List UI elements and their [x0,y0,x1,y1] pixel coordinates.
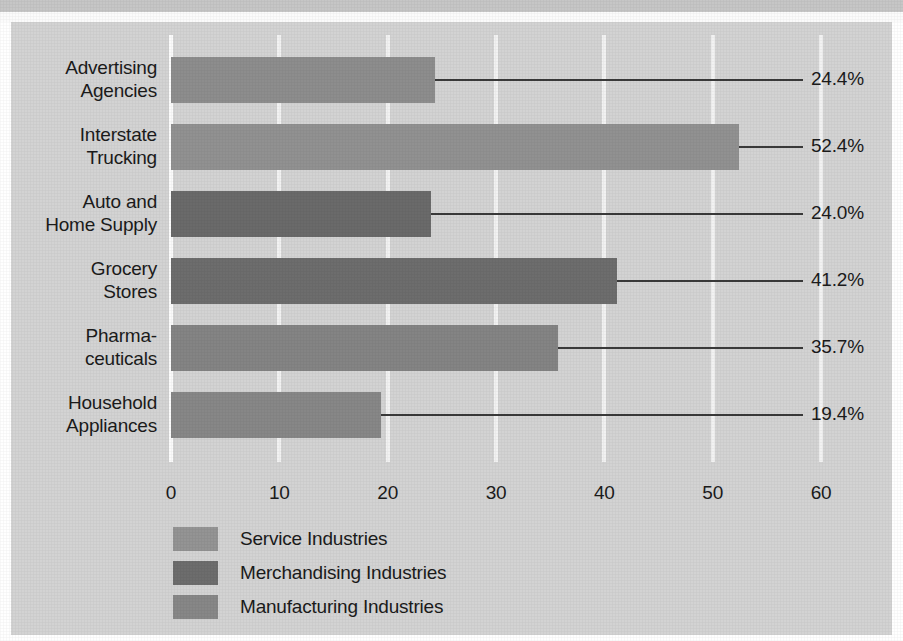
x-tick-label: 20 [368,482,408,504]
leader-line [739,146,803,148]
bar [171,258,617,304]
value-label: 52.4% [811,136,864,156]
leader-line [431,213,803,215]
category-label-line1: Advertising [9,56,157,79]
x-tick-label: 50 [693,482,733,504]
gridline-60 [819,35,823,462]
legend-swatch [173,595,218,619]
x-tick-label: 60 [801,482,841,504]
x-tick-label: 30 [476,482,516,504]
legend-label: Manufacturing Industries [240,596,443,618]
gridline-40 [602,35,606,462]
gridline-50 [711,35,715,462]
x-tick-label: 0 [151,482,191,504]
chart-panel: AdvertisingAgenciesInterstateTruckingAut… [11,22,892,635]
legend-swatch [173,527,218,551]
value-label: 19.4% [811,404,864,424]
category-label-line2: Home Supply [9,213,157,236]
legend-swatch [173,561,218,585]
category-label: GroceryStores [9,257,157,303]
legend-label: Merchandising Industries [240,562,446,584]
legend-item: Merchandising Industries [173,556,446,590]
legend-label: Service Industries [240,528,387,550]
value-label: 24.4% [811,69,864,89]
bar [171,124,739,170]
legend-item: Manufacturing Industries [173,590,446,624]
bar [171,325,558,371]
plot-area [169,35,819,462]
category-label-line1: Pharma- [9,324,157,347]
legend-item: Service Industries [173,522,446,556]
category-label-line1: Auto and [9,190,157,213]
category-label: InterstateTrucking [9,123,157,169]
category-label: AdvertisingAgencies [9,56,157,102]
category-label: HouseholdAppliances [9,391,157,437]
chart-legend: Service IndustriesMerchandising Industri… [173,522,446,624]
category-label-line2: ceuticals [9,347,157,370]
x-tick-label: 40 [584,482,624,504]
category-label-line2: Stores [9,280,157,303]
bar [171,392,381,438]
leader-line [617,280,803,282]
category-label-line1: Interstate [9,123,157,146]
category-label-line2: Trucking [9,146,157,169]
chart-page: AdvertisingAgenciesInterstateTruckingAut… [0,0,903,641]
category-label: Pharma-ceuticals [9,324,157,370]
x-tick-label: 10 [259,482,299,504]
leader-line [558,347,803,349]
bar [171,191,431,237]
value-label: 24.0% [811,203,864,223]
gridline-30 [494,35,498,462]
bar [171,57,435,103]
category-label-line1: Grocery [9,257,157,280]
category-label: Auto andHome Supply [9,190,157,236]
leader-line [435,79,803,81]
value-label: 41.2% [811,270,864,290]
category-label-line2: Appliances [9,414,157,437]
page-top-strip [0,0,903,12]
category-label-line1: Household [9,391,157,414]
page-top-gap [0,12,903,22]
value-label: 35.7% [811,337,864,357]
category-label-line2: Agencies [9,79,157,102]
leader-line [381,414,803,416]
